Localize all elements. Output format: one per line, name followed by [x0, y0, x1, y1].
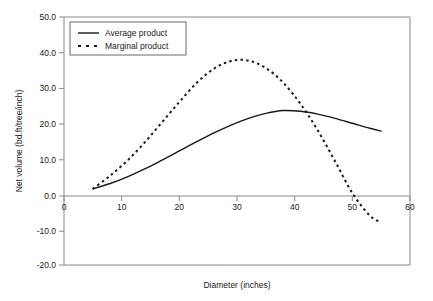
chart-container: 50.0 40.0 30.0 20.0 10.0 0.0 -10.0 -20.0…	[0, 0, 433, 301]
y-tick-label-minus10: -10.0	[37, 226, 57, 236]
y-axis-title: Net volume (bd.ft/tree/inch)	[14, 90, 24, 193]
x-tick-label-0: 0	[62, 202, 67, 212]
y-tick-label-20: 20.0	[39, 119, 56, 129]
x-tick-label-30: 30	[232, 202, 242, 212]
y-tick-label-30: 30.0	[39, 83, 56, 93]
legend-label-average-product: Average product	[105, 28, 168, 38]
x-tick-label-10: 10	[117, 202, 127, 212]
x-tick-label-60: 60	[405, 202, 415, 212]
x-tick-label-40: 40	[290, 202, 300, 212]
y-tick-label-40: 40.0	[39, 48, 56, 58]
y-tick-label-0: 0.0	[44, 191, 56, 201]
x-tick-label-20: 20	[175, 202, 185, 212]
x-axis-title: Diameter (inches)	[203, 280, 270, 290]
y-tick-label-50: 50.0	[39, 12, 56, 22]
x-tick-label-50: 50	[348, 202, 358, 212]
legend-label-marginal-product: Marginal product	[105, 41, 169, 51]
production-function-chart: 50.0 40.0 30.0 20.0 10.0 0.0 -10.0 -20.0…	[0, 0, 433, 301]
chart-background	[0, 0, 433, 301]
y-tick-label-10: 10.0	[39, 155, 56, 165]
y-tick-label-minus20: -20.0	[37, 260, 57, 270]
legend[interactable]: Average product Marginal product	[70, 22, 186, 55]
